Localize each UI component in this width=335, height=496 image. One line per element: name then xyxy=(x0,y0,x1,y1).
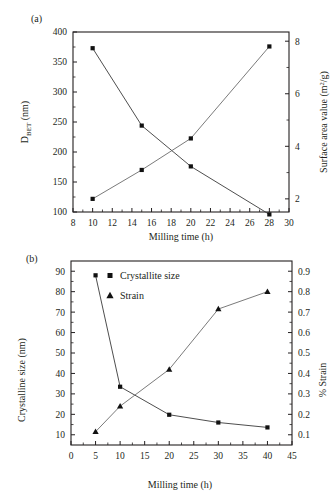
panel-b-xtick-label: 45 xyxy=(287,451,297,461)
panel-b-ytick-label-left: 10 xyxy=(56,430,66,440)
panel-b-data-point xyxy=(265,425,269,429)
panel-a-ylabel-left-main: D xyxy=(19,136,30,143)
panel-b-xtick-label: 35 xyxy=(238,451,248,461)
panel-a-ytick-label-left: 250 xyxy=(53,117,68,127)
panel-b-ytick-label-right: 0.9 xyxy=(298,267,310,277)
panel-a-data-point xyxy=(189,136,193,140)
panel-a-xtick-label: 22 xyxy=(206,218,216,228)
panel-b-yaxis-left-title: Crystalline size (nm) xyxy=(16,338,28,422)
panel-a-ytick-label-right: 2 xyxy=(295,194,300,204)
panel-b-xtick-label: 5 xyxy=(93,451,98,461)
panel-b-ytick-label-left: 60 xyxy=(56,328,66,338)
panel-b-xtick-label: 15 xyxy=(140,451,150,461)
panel-a-ytick-label-left: 150 xyxy=(53,177,68,187)
legend-label: Crystallite size xyxy=(120,270,180,281)
panel-a-xtick-label: 12 xyxy=(108,218,118,228)
panel-a-ylabel-right-main: Surface area value (m xyxy=(318,85,330,173)
figure-container: (a) 810121416182022242628301001502002503… xyxy=(0,0,335,496)
panel-b-ytick-label-right: 0.3 xyxy=(298,389,310,399)
panel-a-ytick-label-left: 300 xyxy=(53,87,68,97)
panel-a-xtick-label: 28 xyxy=(265,218,275,228)
panel-b-ytick-label-right: 0.7 xyxy=(298,308,310,318)
panel-b-ytick-label-left: 30 xyxy=(56,389,66,399)
legend-label: Strain xyxy=(120,290,144,301)
panel-a-ylabel-left-unit: (nm) xyxy=(19,101,31,123)
svg-text:Surface area value (m2/g): Surface area value (m2/g) xyxy=(318,71,330,173)
panel-b-data-point xyxy=(93,273,97,277)
panel-b-data-point xyxy=(216,420,220,424)
panel-a-series-line xyxy=(93,46,270,198)
panel-b-ytick-label-left: 70 xyxy=(56,308,66,318)
panel-b-label: (b) xyxy=(26,253,38,265)
panel-b-ytick-label-right: 0.4 xyxy=(298,369,310,379)
panel-a-ylabel-right-tail: /g) xyxy=(318,71,330,82)
panel-a-ytick-label-right: 4 xyxy=(295,142,300,152)
panel-a-xaxis-title: Milling time (h) xyxy=(149,231,213,243)
panel-b-ytick-label-left: 50 xyxy=(56,348,66,358)
panel-a-xtick-label: 26 xyxy=(245,218,255,228)
panel-a-data xyxy=(91,44,272,216)
panel-b-ytick-label-right: 0.5 xyxy=(298,348,310,358)
svg-text:DBET (nm): DBET (nm) xyxy=(19,101,33,143)
panel-a-data-point xyxy=(140,124,144,128)
panel-a-xtick-label: 18 xyxy=(166,218,176,228)
panel-a-label: (a) xyxy=(31,13,42,25)
panel-a-data-point xyxy=(91,197,95,201)
panel-b-ytick-label-left: 90 xyxy=(56,267,66,277)
panel-b-ytick-label-right: 0.8 xyxy=(298,287,310,297)
panel-b-data-point xyxy=(264,288,270,294)
panel-b-xtick-label: 40 xyxy=(263,451,273,461)
panel-b-xtick-label: 10 xyxy=(115,451,125,461)
panel-a-xtick-label: 8 xyxy=(71,218,76,228)
panel-b-axes: 0510152025303540451020304050607080900.10… xyxy=(56,261,311,461)
panel-b-xtick-label: 25 xyxy=(189,451,199,461)
panel-a-ytick-label-left: 350 xyxy=(53,57,68,67)
panel-a-data-point xyxy=(91,46,95,50)
panel-a-xtick-label: 30 xyxy=(284,218,294,228)
panel-b-ytick-label-left: 40 xyxy=(56,369,66,379)
panel-a-xtick-label: 10 xyxy=(88,218,98,228)
panel-a-ytick-label-right: 6 xyxy=(295,89,300,99)
panel-a-ytick-label-right: 8 xyxy=(295,37,300,47)
panel-b-ytick-label-left: 20 xyxy=(56,410,66,420)
panel-a-ytick-label-left: 100 xyxy=(53,207,68,217)
panel-b-xtick-label: 0 xyxy=(69,451,74,461)
panel-a-axes: 8101214161820222426283010015020025030035… xyxy=(53,27,300,228)
panel-a-xtick-label: 20 xyxy=(186,218,196,228)
panel-a-ylabel-left-sub: BET xyxy=(25,122,33,136)
panel-b-data-point xyxy=(167,413,171,417)
panel-b-xtick-label: 30 xyxy=(214,451,224,461)
panel-b-ytick-label-left: 80 xyxy=(56,287,66,297)
panel-a-data-point xyxy=(189,164,193,168)
panel-b-svg: (b) 051015202530354045102030405060708090… xyxy=(0,248,335,496)
panel-a-ytick-label-left: 400 xyxy=(53,27,68,37)
panel-a-data-point xyxy=(267,212,271,216)
panel-a-xtick-label: 14 xyxy=(127,218,137,228)
panel-b-legend: Crystallite sizeStrain xyxy=(106,270,180,301)
chart-panel-a: (a) 810121416182022242628301001502002503… xyxy=(0,0,335,248)
chart-panel-b: (b) 051015202530354045102030405060708090… xyxy=(0,248,335,496)
panel-b-data-point xyxy=(118,385,122,389)
legend-marker-square xyxy=(108,273,113,278)
legend-marker-triangle xyxy=(106,292,113,298)
panel-a-yaxis-right-title: Surface area value (m2/g) xyxy=(318,71,330,173)
panel-b-xtick-label: 20 xyxy=(164,451,174,461)
panel-a-data-point xyxy=(267,44,271,48)
panel-b-data-point xyxy=(117,403,123,409)
panel-b-ytick-label-right: 0.6 xyxy=(298,328,310,338)
panel-a-data-point xyxy=(140,168,144,172)
panel-a-svg: (a) 810121416182022242628301001502002503… xyxy=(0,0,335,248)
panel-b-ytick-label-right: 0.1 xyxy=(298,430,310,440)
panel-a-ytick-label-left: 200 xyxy=(53,147,68,157)
panel-b-series-line xyxy=(96,292,268,432)
panel-b-xaxis-title: Milling time (h) xyxy=(148,479,212,491)
panel-a-xtick-label: 16 xyxy=(147,218,157,228)
panel-b-ytick-label-right: 0.2 xyxy=(298,410,310,420)
panel-a-xtick-label: 24 xyxy=(225,218,235,228)
panel-b-yaxis-right-title: % Strain xyxy=(317,363,328,398)
panel-a-series-line xyxy=(93,48,270,214)
panel-a-yaxis-left-title: DBET (nm) xyxy=(19,101,33,143)
